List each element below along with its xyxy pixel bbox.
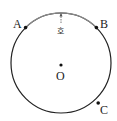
- arc-label: 호: [57, 27, 64, 36]
- center-point: [59, 63, 62, 66]
- label-c: C: [100, 103, 108, 117]
- point-b: [95, 26, 99, 30]
- label-o: O: [56, 69, 65, 83]
- circle-diagram: 호 A B C O: [0, 0, 117, 121]
- point-a: [24, 26, 28, 30]
- label-a: A: [13, 17, 22, 31]
- label-b: B: [100, 17, 108, 31]
